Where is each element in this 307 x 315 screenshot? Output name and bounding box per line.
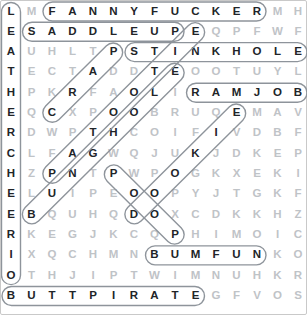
grid-letter[interactable]: U (171, 250, 179, 262)
grid-letter[interactable]: X (171, 209, 179, 221)
grid-letter[interactable]: E (192, 26, 200, 38)
grid-letter[interactable]: B (150, 107, 158, 119)
grid-letter[interactable]: P (171, 189, 179, 201)
grid-letter[interactable]: K (273, 168, 281, 180)
grid-letter[interactable]: R (191, 87, 199, 99)
grid-letter[interactable]: O (150, 209, 159, 221)
grid-letter[interactable]: L (151, 87, 158, 99)
grid-letter[interactable]: N (130, 250, 138, 262)
grid-letter[interactable]: P (89, 189, 97, 201)
grid-letter[interactable]: F (48, 148, 55, 160)
grid-letter[interactable]: O (171, 168, 180, 180)
grid-letter[interactable]: I (276, 229, 279, 241)
grid-letter[interactable]: E (274, 148, 282, 160)
grid-letter[interactable]: R (253, 6, 261, 18)
grid-letter[interactable]: J (213, 148, 219, 160)
grid-letter[interactable]: N (212, 270, 220, 282)
grid-letter[interactable]: R (68, 87, 76, 99)
grid-letter[interactable]: I (91, 270, 94, 282)
grid-letter[interactable]: E (233, 6, 241, 18)
grid-letter[interactable]: H (253, 270, 261, 282)
grid-letter[interactable]: E (233, 107, 241, 119)
grid-letter[interactable]: E (192, 290, 200, 302)
grid-letter[interactable]: K (212, 46, 220, 58)
grid-letter[interactable]: H (191, 229, 199, 241)
grid-letter[interactable]: C (7, 148, 15, 160)
grid-letter[interactable]: J (213, 189, 219, 201)
grid-letter[interactable]: O (273, 87, 282, 99)
grid-letter[interactable]: U (232, 270, 240, 282)
grid-letter[interactable]: L (274, 46, 281, 58)
grid-letter[interactable]: Q (130, 148, 139, 160)
grid-letter[interactable]: E (253, 168, 261, 180)
grid-letter[interactable]: C (48, 67, 56, 79)
grid-letter[interactable]: C (130, 128, 138, 140)
grid-letter[interactable]: I (173, 270, 176, 282)
grid-letter[interactable]: D (68, 26, 76, 38)
grid-letter[interactable]: W (108, 148, 119, 160)
grid-letter[interactable]: R (294, 270, 302, 282)
grid-letter[interactable]: K (273, 270, 281, 282)
grid-letter[interactable]: P (151, 168, 159, 180)
grid-letter[interactable]: K (273, 250, 281, 262)
grid-letter[interactable]: E (48, 229, 56, 241)
grid-letter[interactable]: I (214, 229, 217, 241)
grid-letter[interactable]: I (71, 189, 74, 201)
grid-letter[interactable]: H (7, 168, 15, 180)
grid-letter[interactable]: A (150, 290, 158, 302)
grid-letter[interactable]: U (191, 107, 199, 119)
grid-letter[interactable]: O (150, 128, 159, 140)
grid-letter[interactable]: K (191, 148, 199, 160)
grid-letter[interactable]: L (69, 46, 76, 58)
grid-letter[interactable]: C (68, 250, 76, 262)
grid-letter[interactable]: T (69, 290, 76, 302)
grid-letter[interactable]: N (253, 250, 261, 262)
grid-letter[interactable]: J (151, 148, 157, 160)
grid-letter[interactable]: T (171, 290, 178, 302)
grid-letter[interactable]: U (48, 189, 56, 201)
grid-letter[interactable]: P (48, 168, 56, 180)
grid-letter[interactable]: G (68, 229, 77, 241)
grid-letter[interactable]: T (69, 67, 76, 79)
grid-letter[interactable]: A (7, 46, 15, 58)
grid-letter[interactable]: M (109, 250, 119, 262)
grid-letter[interactable]: D (232, 148, 240, 160)
grid-letter[interactable]: J (254, 87, 260, 99)
grid-letter[interactable]: I (173, 128, 176, 140)
grid-letter[interactable]: Q (48, 250, 57, 262)
grid-letter[interactable]: T (233, 67, 240, 79)
grid-letter[interactable]: T (28, 270, 35, 282)
grid-letter[interactable]: F (294, 128, 301, 140)
grid-letter[interactable]: D (109, 67, 117, 79)
grid-letter[interactable]: M (273, 6, 283, 18)
grid-letter[interactable]: F (192, 128, 199, 140)
grid-letter[interactable]: K (232, 209, 240, 221)
grid-letter[interactable]: H (273, 209, 281, 221)
grid-letter[interactable]: T (233, 189, 240, 201)
grid-letter[interactable]: P (294, 148, 302, 160)
grid-letter[interactable]: H (109, 128, 117, 140)
grid-letter[interactable]: E (110, 189, 118, 201)
grid-letter[interactable]: O (294, 250, 303, 262)
grid-letter[interactable]: H (89, 250, 97, 262)
grid-letter[interactable]: T (89, 46, 96, 58)
grid-letter[interactable]: S (294, 290, 302, 302)
grid-letter[interactable]: V (233, 128, 241, 140)
grid-letter[interactable]: H (7, 87, 15, 99)
grid-letter[interactable]: M (27, 6, 37, 18)
grid-letter[interactable]: H (232, 46, 240, 58)
grid-letter[interactable]: F (294, 26, 301, 38)
grid-letter[interactable]: U (171, 148, 179, 160)
grid-letter[interactable]: O (253, 46, 262, 58)
grid-letter[interactable]: M (232, 229, 242, 241)
grid-letter[interactable]: W (47, 128, 58, 140)
grid-letter[interactable]: T (7, 67, 14, 79)
grid-letter[interactable]: E (7, 107, 15, 119)
grid-letter[interactable]: E (28, 67, 36, 79)
grid-letter[interactable]: P (69, 128, 77, 140)
grid-letter[interactable]: C (294, 229, 302, 241)
grid-letter[interactable]: C (48, 107, 56, 119)
grid-letter[interactable]: K (109, 229, 117, 241)
grid-letter[interactable]: W (149, 270, 160, 282)
grid-letter[interactable]: A (48, 26, 56, 38)
